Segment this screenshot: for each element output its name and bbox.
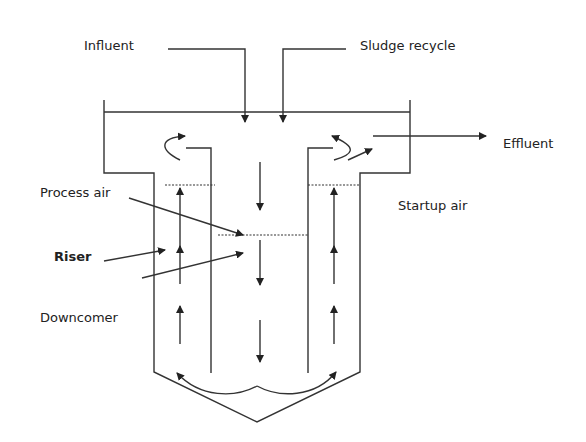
effluent-label: Effluent (503, 137, 553, 150)
influent-label: Influent (84, 39, 134, 52)
process-air-label: Process air (40, 186, 110, 199)
influent-line (168, 49, 245, 122)
startup-air-label: Startup air (398, 199, 467, 212)
bottom-recirculation-icon (177, 372, 336, 394)
level-lines (165, 185, 360, 235)
riser-label: Riser (54, 250, 91, 263)
sludge-recycle-label: Sludge recycle (360, 39, 455, 52)
riser-leader (104, 250, 243, 278)
reactor-diagram: Influent Sludge recycle Effluent Process… (0, 0, 586, 442)
recirculation-curl-right-icon (332, 136, 372, 160)
vessel-outline (104, 100, 410, 422)
reactor-schematic (0, 0, 586, 442)
downcomer-label: Downcomer (40, 311, 118, 324)
process-air-leader (129, 198, 243, 235)
sludge-recycle-line (283, 49, 346, 122)
recirculation-curl-left-icon (165, 136, 185, 160)
